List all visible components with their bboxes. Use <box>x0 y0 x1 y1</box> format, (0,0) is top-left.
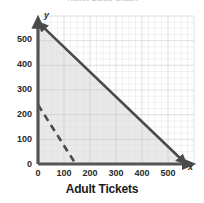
plot-area <box>38 16 194 164</box>
x-tick-label-300: 300 <box>103 168 129 178</box>
y-tick-label-300: 300 <box>6 84 32 94</box>
x-tick-label-400: 400 <box>129 168 155 178</box>
chart-title: Ticket Sales Graph <box>0 0 204 1</box>
x-tick-label-500: 500 <box>155 168 181 178</box>
y-tick-label-400: 400 <box>6 59 32 69</box>
chart-canvas <box>38 16 194 164</box>
x-tick-label-0: 0 <box>25 168 51 178</box>
x-tick-label-100: 100 <box>51 168 77 178</box>
y-tick-label-200: 200 <box>6 109 32 119</box>
y-tick-label-500: 500 <box>6 34 32 44</box>
x-axis-title: Adult Tickets <box>0 182 204 196</box>
x-tick-label-200: 200 <box>77 168 103 178</box>
y-tick-label-100: 100 <box>6 134 32 144</box>
